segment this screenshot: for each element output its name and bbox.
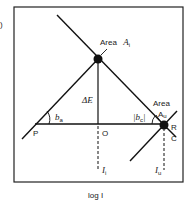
area-au-symbol: Au	[158, 110, 167, 119]
ba-label: ba	[55, 112, 64, 123]
x-axis-label: log I	[88, 191, 103, 200]
area-au-word: Area	[153, 99, 170, 108]
angle-arc-bc	[152, 116, 155, 124]
apex-dot	[94, 55, 103, 64]
bc-label: |bc|	[133, 112, 145, 123]
area-ai-label: Area Ai	[100, 31, 130, 48]
evans-diagram: ) Area Ai Area Au ΔE ba |bc| P O R C Ii	[0, 0, 186, 203]
leader-ai	[101, 49, 107, 55]
line-left-descending	[57, 15, 164, 125]
point-p-label: P	[33, 129, 38, 138]
point-r-label: R	[171, 123, 177, 132]
right-dot	[160, 121, 169, 130]
point-c-label: C	[171, 134, 177, 143]
panel-marker: )	[0, 20, 3, 29]
iu-label: Iu	[154, 165, 161, 176]
delta-e-label: ΔE	[81, 95, 93, 105]
point-o-label: O	[102, 129, 108, 138]
ii-label: Ii	[101, 165, 106, 176]
